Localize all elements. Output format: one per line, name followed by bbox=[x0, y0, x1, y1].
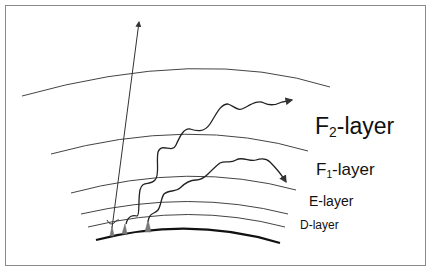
antenna-3-icon bbox=[145, 220, 151, 232]
f2-reflected-ray bbox=[126, 100, 292, 224]
layer-boundaries bbox=[22, 69, 330, 227]
antenna-1-icon bbox=[110, 226, 114, 236]
label-e-layer: E-layer bbox=[309, 194, 353, 208]
arc-d-boundary bbox=[88, 215, 285, 228]
label-d-layer: D-layer bbox=[300, 219, 339, 231]
arc-top-layer bbox=[22, 69, 330, 96]
arc-e-boundary bbox=[81, 202, 288, 215]
ionosphere-diagram: F2-layer F1-layer E-layer D-layer bbox=[0, 0, 434, 275]
escaping-ray bbox=[112, 22, 139, 228]
label-f1-layer: F1-layer bbox=[316, 161, 375, 180]
antenna-2-icon bbox=[122, 224, 127, 234]
f1-reflected-ray bbox=[148, 159, 286, 222]
label-f2-layer: F2-layer bbox=[315, 115, 394, 140]
